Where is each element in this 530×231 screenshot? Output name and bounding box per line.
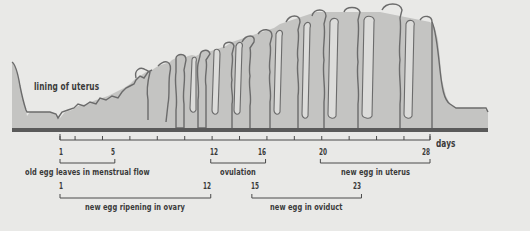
phase-bracket-ovulation: [211, 159, 266, 163]
phase-bracket-menstrual: [60, 159, 115, 163]
phase-label-ovulation: ovulation: [220, 167, 256, 177]
uterus-cycle-diagram: lining of uterus days 15old egg leaves i…: [0, 0, 530, 231]
axis-ticks: [60, 134, 430, 140]
phase-label-menstrual: old egg leaves in menstrual flow: [25, 167, 150, 177]
phase-label-oviduct: new egg in oviduct: [270, 202, 343, 212]
phase-end-day-oviduct: 23: [353, 182, 361, 191]
phase-start-day-menstrual: 1: [59, 148, 63, 157]
axis-unit-label: days: [436, 138, 456, 149]
phase-bracket-ovary: [60, 194, 211, 198]
phase-start-day-uterus: 20: [319, 148, 327, 157]
phase-bracket-uterus: [320, 159, 430, 163]
phase-end-day-ovary: 12: [203, 182, 211, 191]
phase-start-day-ovulation: 12: [210, 148, 218, 157]
phase-end-day-menstrual: 5: [111, 148, 115, 157]
phase-bracket-oviduct: [252, 194, 362, 198]
phase-end-day-uterus: 28: [422, 148, 430, 157]
phase-label-ovary: new egg ripening in ovary: [85, 202, 185, 212]
phase-label-uterus: new egg in uterus: [341, 167, 410, 177]
phase-start-day-ovary: 1: [59, 182, 63, 191]
lining-label: lining of uterus: [34, 81, 99, 92]
uterine-lining-illustration: [0, 0, 530, 231]
day-axis: [60, 134, 430, 140]
phase-end-day-ovulation: 16: [258, 148, 266, 157]
baseline-bar: [12, 128, 488, 132]
phase-brackets: [60, 159, 430, 198]
phase-start-day-oviduct: 15: [251, 182, 259, 191]
